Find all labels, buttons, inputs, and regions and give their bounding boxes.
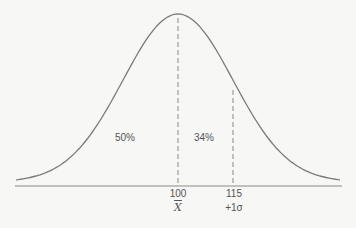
mean-symbol: X <box>174 201 182 214</box>
tick-label-sd: 115 <box>226 188 242 199</box>
sd-symbol: +1σ <box>225 202 243 213</box>
region-label-34: 34% <box>194 132 214 143</box>
region-label-50: 50% <box>115 132 135 143</box>
tick-label-mean: 100 <box>170 188 187 199</box>
